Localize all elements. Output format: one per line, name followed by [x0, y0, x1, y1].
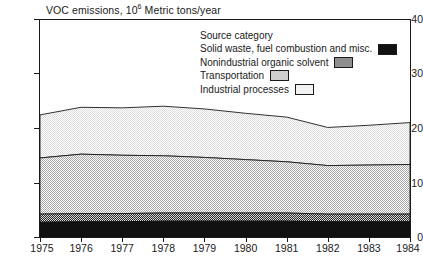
legend-label-transportation: Transportation	[200, 69, 264, 82]
area-bands	[40, 106, 410, 237]
legend-item-nonindustrial-organic-solvent[interactable]: Nonindustrial organic solvent	[200, 56, 397, 69]
legend-label-industrial-processes: Industrial processes	[200, 83, 289, 96]
legend: Source category Solid waste, fuel combus…	[200, 29, 397, 96]
legend-title-row: Source category	[200, 29, 397, 42]
legend-label-nonindustrial-organic-solvent: Nonindustrial organic solvent	[200, 56, 328, 69]
band-solid-waste-fuel-combustion	[40, 221, 410, 237]
legend-swatch-industrial-processes	[295, 84, 314, 95]
legend-swatch-nonindustrial-organic-solvent	[334, 57, 353, 68]
legend-item-transportation[interactable]: Transportation	[200, 69, 397, 82]
legend-swatch-solid-waste	[378, 44, 397, 55]
chart-root: VOC emissions, 106 Metric tons/year 40 3…	[0, 0, 423, 265]
legend-item-solid-waste[interactable]: Solid waste, fuel combustion and misc.	[200, 42, 397, 55]
legend-swatch-transportation	[270, 70, 289, 81]
legend-title: Source category	[200, 29, 273, 42]
legend-item-industrial-processes[interactable]: Industrial processes	[200, 83, 397, 96]
legend-label-solid-waste: Solid waste, fuel combustion and misc.	[200, 42, 372, 55]
